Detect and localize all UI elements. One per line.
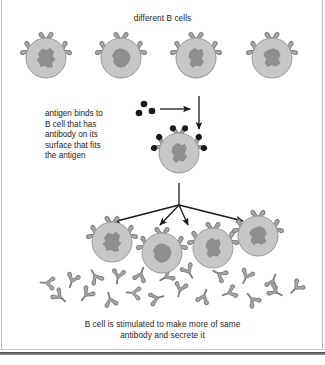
secreted-antibody-11 [76,285,96,305]
activated-b-cell-nucleus [172,143,187,162]
nucleus-shape [206,238,221,257]
antibody-shape [125,286,141,300]
nucleus-shape [264,49,280,67]
secreted-antibody-16 [195,287,212,305]
secreted-antibody-6 [179,262,198,281]
secreted-antibody-3 [110,268,126,285]
free-antigen-group [136,101,156,117]
antibody-shape [148,290,166,307]
b-cell-3 [170,32,222,78]
diagram-canvas [0,0,325,365]
daughter-cell-4-nucleus [250,227,266,245]
antibody-shape [39,276,55,290]
proliferation-branch-4 [179,205,243,221]
antibody-shape [286,278,306,298]
b-cell-1 [20,32,72,78]
daughter-cell-2 [136,227,188,273]
antibody-shape [242,289,262,309]
secreted-antibody-1 [63,272,80,290]
secreted-antibody-15 [172,281,189,299]
secreted-antibody-4 [132,265,149,283]
bound-antigen-right [182,125,188,131]
daughter-cell-4 [232,210,284,256]
antibody-shape [179,262,198,281]
antibody-shape [102,291,119,309]
nucleus-shape [250,227,266,245]
antibody-shape [237,267,255,286]
antibody-shape [172,281,189,299]
secreted-antibody-17 [220,284,238,301]
antibody-shape [86,267,105,286]
bound-antigen-left [170,125,176,131]
antibody-shape [63,272,80,290]
proliferation-branch-3 [179,205,188,225]
daughter-cell-3 [187,222,239,268]
b-cell-4-nucleus [264,49,280,67]
antibody-shape [110,268,126,285]
secreted-antibody-14 [148,290,166,307]
b-cell-4 [246,32,298,78]
b-cell-clonal-selection-diagram: different B cells antigen binds to B cel… [0,0,325,365]
b-cell-3-nucleus [189,48,204,67]
daughter-cell-1 [86,216,138,262]
antibody-shape [220,284,238,301]
activated-b-cell [150,125,208,173]
antigen-dot-1 [141,101,148,108]
proliferation-branch-1 [113,205,179,222]
antigen-dot-3 [136,110,143,117]
secreted-antibody-20 [39,276,55,290]
nucleus-shape [189,48,204,67]
arrow-group [160,96,199,129]
nucleus-shape [172,143,187,162]
proliferation-arrow-group [113,183,243,225]
daughter-cell-3-nucleus [206,238,221,257]
antibody-shape [132,265,149,283]
secreted-antibody-12 [102,291,119,309]
secreted-antibody-21 [286,278,306,298]
secreted-antibody-18 [242,289,262,309]
antibody-shape [195,287,212,305]
antibody-shape [76,285,96,305]
secreted-antibody-2 [86,267,105,286]
antigen-dot-2 [149,108,156,115]
b-cell-2 [95,32,147,78]
secreted-antibody-8 [237,267,255,286]
secreted-antibody-13 [125,286,141,300]
